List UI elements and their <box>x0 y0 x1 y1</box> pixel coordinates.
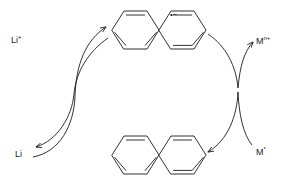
arrow-li-metal-to-radical-anion-lower <box>33 96 75 157</box>
arrow-radical-anion-to-li-cation <box>36 94 74 147</box>
label-metal-cation: Mn+ <box>256 37 270 46</box>
arrow-radical-anion-to-metal-cation <box>238 42 253 88</box>
naphthalene-top <box>112 11 206 49</box>
arrow-metal-zero-to-naphthalene <box>208 92 238 152</box>
label-lithium-metal: Li <box>15 150 22 159</box>
label-metal-zero: M* <box>256 148 266 157</box>
arrow-li-metal-to-radical-anion <box>75 27 106 96</box>
catalytic-cycle-diagram: Li+ Li Mn+ M* •− <box>0 0 288 185</box>
cycle-canvas <box>0 0 288 185</box>
arrow-metal-zero-to-naphthalene-upper <box>238 92 252 145</box>
naphthalene-bottom <box>112 136 206 174</box>
arrow-radical-anion-to-metal-cation-lower <box>208 34 238 88</box>
radical-anion-marker: •− <box>170 11 177 19</box>
label-lithium-cation: Li+ <box>11 36 22 45</box>
